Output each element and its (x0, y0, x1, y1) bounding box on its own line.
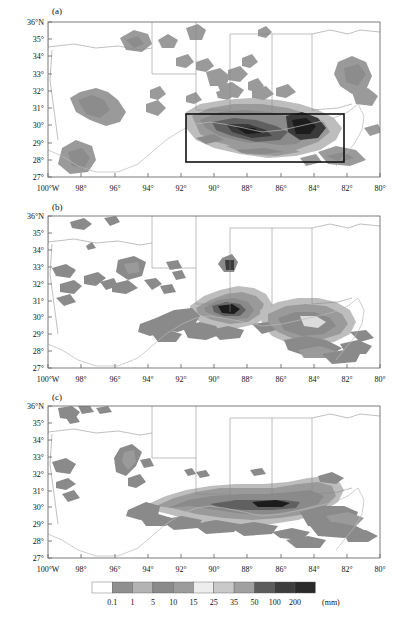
precipitation-figure: (a) (0, 0, 404, 619)
xtick-label: 90° (208, 565, 219, 574)
ytick-label: 31° (33, 487, 44, 496)
cbar-units-label: (mm) (322, 598, 340, 607)
ytick-label: 30° (33, 503, 44, 512)
xtick-label: 94° (142, 565, 153, 574)
xtick-label: 84° (308, 184, 319, 193)
cbar-segment (254, 582, 274, 593)
cbar-segment (234, 582, 254, 593)
panel-b-map: 36°N 35° 34° 33° 32° 31° 30° 29° 28° 27° (0, 198, 404, 394)
xtick-label: 82° (341, 565, 352, 574)
cbar-tick: 10 (169, 598, 177, 607)
ytick-label: 33° (33, 453, 44, 462)
panel-a: (a) (0, 0, 404, 200)
ytick-label: 34° (33, 436, 44, 445)
xtick-label: 92° (175, 184, 186, 193)
colorbar-segments (92, 582, 315, 593)
xtick-label: 94° (142, 184, 153, 193)
colorbar-tick-labels: 0.1 1 5 10 15 25 35 50 100 200 (mm) (107, 598, 340, 607)
panel-b: (b) (0, 198, 404, 394)
ytick-label: 35° (33, 419, 44, 428)
ytick-label: 33° (33, 263, 44, 272)
ytick-label: 36°N (27, 212, 44, 221)
cbar-segment (214, 582, 234, 593)
ytick-label: 36°N (27, 402, 44, 411)
panel-a-map: 36°N 35° 34° 33° 32° 31° 30° 29° 28° 27° (0, 0, 404, 200)
ytick-label: 29° (33, 520, 44, 529)
colorbar-svg: 0.1 1 5 10 15 25 35 50 100 200 (mm) (0, 578, 404, 619)
cbar-segment (275, 582, 295, 593)
xtick-label: 94° (142, 375, 153, 384)
cbar-segment (112, 582, 132, 593)
xtick-label: 80° (374, 565, 385, 574)
ytick-label: 27° (33, 554, 44, 563)
ytick-label: 30° (33, 313, 44, 322)
cbar-segment (133, 582, 153, 593)
ytick-label: 34° (33, 52, 44, 61)
ytick-label: 36°N (27, 18, 44, 27)
xtick-label: 88° (241, 565, 252, 574)
cbar-segment (295, 582, 315, 593)
ytick-label: 32° (33, 280, 44, 289)
ytick-label: 31° (33, 297, 44, 306)
cbar-segment (153, 582, 173, 593)
ytick-label: 33° (33, 70, 44, 79)
cbar-segment (92, 582, 112, 593)
ytick-label: 27° (33, 173, 44, 182)
cbar-segment (173, 582, 193, 593)
cbar-tick: 25 (210, 598, 218, 607)
xtick-label: 100°W (37, 184, 60, 193)
xtick-label: 88° (241, 184, 252, 193)
ytick-label: 29° (33, 139, 44, 148)
panel-c: (c) (0, 390, 404, 580)
xtick-label: 86° (275, 375, 286, 384)
colorbar: 0.1 1 5 10 15 25 35 50 100 200 (mm) (0, 578, 404, 619)
ytick-label: 28° (33, 537, 44, 546)
ytick-label: 27° (33, 364, 44, 373)
cbar-tick: 35 (230, 598, 238, 607)
cbar-tick: 100 (269, 598, 281, 607)
cbar-tick: 200 (289, 598, 301, 607)
ytick-label: 28° (33, 156, 44, 165)
xtick-label: 96° (109, 375, 120, 384)
xtick-label: 92° (175, 565, 186, 574)
xtick-label: 90° (208, 184, 219, 193)
xtick-label: 100°W (37, 565, 60, 574)
ytick-label: 35° (33, 35, 44, 44)
xtick-label: 82° (341, 184, 352, 193)
xtick-label: 100°W (37, 375, 60, 384)
cbar-tick: 5 (151, 598, 155, 607)
xtick-label: 88° (241, 375, 252, 384)
xtick-label: 82° (341, 375, 352, 384)
xtick-label: 84° (308, 565, 319, 574)
cbar-tick: 1 (131, 598, 135, 607)
cbar-tick: 0.1 (107, 598, 117, 607)
ytick-label: 31° (33, 104, 44, 113)
ytick-label: 28° (33, 347, 44, 356)
panel-c-map: 36°N 35° 34° 33° 32° 31° 30° 29° 28° 27° (0, 390, 404, 580)
xtick-label: 80° (374, 375, 385, 384)
xtick-label: 98° (75, 184, 86, 193)
ytick-label: 30° (33, 121, 44, 130)
xtick-label: 98° (75, 565, 86, 574)
cbar-segment (194, 582, 214, 593)
cbar-tick: 50 (250, 598, 258, 607)
ytick-label: 34° (33, 246, 44, 255)
ytick-label: 32° (33, 87, 44, 96)
cbar-tick: 15 (190, 598, 198, 607)
xtick-label: 96° (109, 184, 120, 193)
ytick-label: 32° (33, 470, 44, 479)
xtick-label: 86° (275, 184, 286, 193)
xtick-label: 86° (275, 565, 286, 574)
xtick-label: 96° (109, 565, 120, 574)
ytick-label: 29° (33, 330, 44, 339)
xtick-label: 80° (374, 184, 385, 193)
xtick-label: 98° (75, 375, 86, 384)
xtick-label: 90° (208, 375, 219, 384)
ytick-label: 35° (33, 229, 44, 238)
xtick-label: 84° (308, 375, 319, 384)
xtick-label: 92° (175, 375, 186, 384)
